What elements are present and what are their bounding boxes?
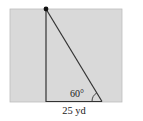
- background-panel: [10, 9, 122, 102]
- base-length-label: 25 yd: [62, 105, 86, 116]
- triangle-diagram: 60° 25 yd: [0, 0, 143, 121]
- top-point-dot: [44, 7, 49, 12]
- angle-label: 60°: [70, 88, 84, 99]
